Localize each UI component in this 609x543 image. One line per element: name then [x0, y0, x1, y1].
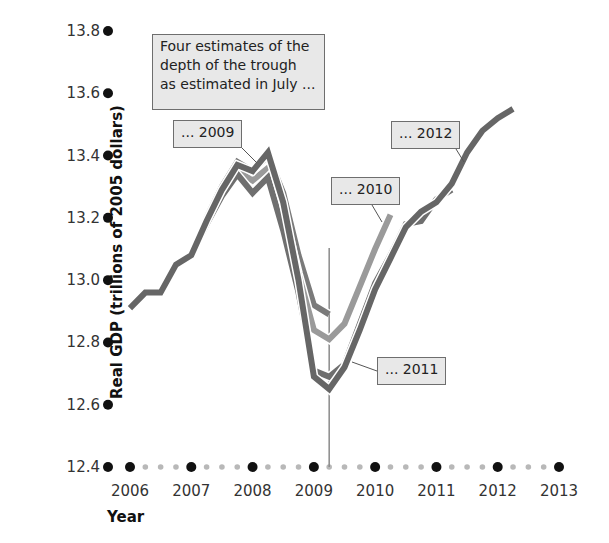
x-tick-label: 2009	[295, 482, 333, 500]
y-tick-dot	[103, 26, 113, 36]
x-tick-label: 2010	[356, 482, 394, 500]
y-tick-label: 13.2	[67, 209, 100, 227]
callout-2011: ... 2011	[377, 357, 446, 385]
callout-2012-label: ... 2012	[399, 125, 452, 141]
x-quarter-dot	[143, 464, 149, 470]
callout-2011-label: ... 2011	[385, 361, 438, 377]
x-tick-label: 2011	[417, 482, 455, 500]
y-tick-label: 13.8	[67, 22, 100, 40]
callout-2009: ... 2009	[173, 120, 242, 148]
y-tick-label: 13.6	[67, 84, 100, 102]
y-axis: 13.813.613.413.213.012.812.612.4	[67, 22, 113, 476]
series-outline	[130, 109, 513, 389]
y-tick-dot	[103, 462, 113, 472]
callout-leader-line	[372, 205, 382, 222]
x-quarter-dot	[219, 464, 225, 470]
x-quarter-dot	[280, 464, 286, 470]
y-axis-title: Real GDP (trillions of 2005 dollars)	[108, 105, 126, 399]
x-tick-dot	[186, 462, 196, 472]
y-tick-label: 12.8	[67, 333, 100, 351]
x-tick-label: 2006	[111, 482, 149, 500]
annotation-text: Four estimates of the depth of the troug…	[160, 38, 315, 92]
callout-leader-line	[352, 362, 377, 371]
x-quarter-dot	[541, 464, 547, 470]
x-tick-dot	[493, 462, 503, 472]
series-outline	[130, 174, 452, 376]
x-tick-dot	[370, 462, 380, 472]
x-quarter-dot	[510, 464, 516, 470]
x-quarter-dot	[449, 464, 455, 470]
y-tick-label: 12.6	[67, 396, 100, 414]
x-tick-dot	[125, 462, 135, 472]
x-quarter-dot	[526, 464, 532, 470]
x-tick-dot	[431, 462, 441, 472]
callout-2012: ... 2012	[391, 121, 460, 149]
x-quarter-dot	[265, 464, 271, 470]
x-quarter-dot	[234, 464, 240, 470]
x-quarter-dot	[464, 464, 470, 470]
x-quarter-dot	[204, 464, 210, 470]
y-tick-label: 13.4	[67, 147, 100, 165]
y-tick-dot	[103, 88, 113, 98]
series-lines	[130, 109, 513, 389]
y-tick-dot	[103, 400, 113, 410]
x-quarter-dot	[403, 464, 409, 470]
y-tick-label: 12.4	[67, 458, 100, 476]
x-tick-label: 2013	[540, 482, 578, 500]
x-tick-label: 2007	[172, 482, 210, 500]
x-tick-dot	[554, 462, 564, 472]
x-axis: 20062007200820092010201120122013	[111, 462, 578, 500]
x-tick-label: 2008	[233, 482, 271, 500]
callout-2009-label: ... 2009	[181, 124, 234, 140]
x-quarter-dot	[296, 464, 302, 470]
x-quarter-dot	[173, 464, 179, 470]
x-quarter-dot	[480, 464, 486, 470]
x-quarter-dot	[342, 464, 348, 470]
x-quarter-dot	[357, 464, 363, 470]
x-axis-title: Year	[106, 508, 145, 526]
series-line-2012	[130, 109, 513, 389]
x-quarter-dot	[158, 464, 164, 470]
x-quarter-dot	[418, 464, 424, 470]
callout-2010-label: ... 2010	[339, 181, 392, 197]
x-tick-label: 2012	[479, 482, 517, 500]
callout-2010: ... 2010	[331, 177, 400, 205]
chart-annotation-box: Four estimates of the depth of the troug…	[152, 34, 325, 110]
y-tick-label: 13.0	[67, 271, 100, 289]
callout-leader-line	[242, 148, 257, 163]
x-tick-dot	[309, 462, 319, 472]
x-quarter-dot	[388, 464, 394, 470]
x-tick-dot	[248, 462, 258, 472]
